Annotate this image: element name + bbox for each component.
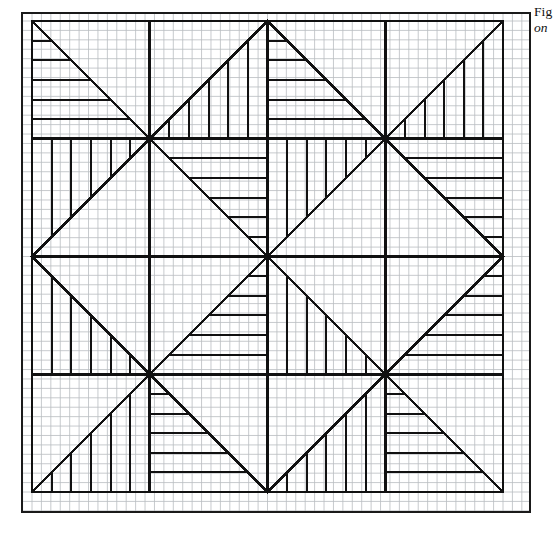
bold-diagonal-group bbox=[32, 21, 503, 492]
figure-canvas bbox=[0, 0, 553, 537]
quilt-pattern-svg bbox=[0, 0, 553, 537]
caption-line-1: Fig bbox=[534, 4, 553, 20]
figure-caption: Fig on bbox=[534, 4, 553, 37]
caption-line-2: on bbox=[534, 20, 553, 36]
